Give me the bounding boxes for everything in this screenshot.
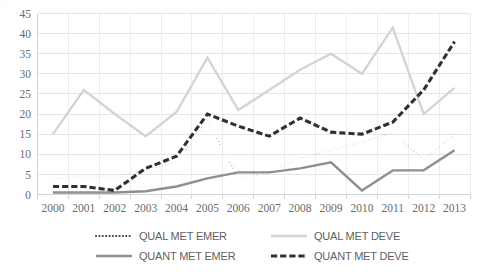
y-axis-tick-label: 20 <box>20 108 32 120</box>
x-axis-tick-label: 2000 <box>41 202 64 214</box>
legend-item[interactable]: QUANT MET DEVE <box>271 250 409 262</box>
x-axis-tick-label: 2002 <box>103 202 126 214</box>
x-axis-tick-label: 2007 <box>258 202 281 214</box>
x-axis-tick-label: 2010 <box>350 202 373 214</box>
x-axis-tick-label: 2003 <box>134 202 157 214</box>
x-axis-tick-label: 2005 <box>196 202 219 214</box>
y-axis-tick-label: 40 <box>20 28 32 40</box>
x-axis-tick-label: 2009 <box>319 202 342 214</box>
y-axis-tick-label: 10 <box>20 148 32 160</box>
x-axis-tick-label: 2004 <box>165 202 188 214</box>
x-axis-tick-label: 2008 <box>289 202 312 214</box>
y-axis-tick-label: 0 <box>25 189 31 201</box>
legend-label: QUANT MET DEVE <box>314 250 409 262</box>
legend-item[interactable]: QUANT MET EMER <box>96 250 236 262</box>
legend-label: QUAL MET DEVE <box>314 230 400 242</box>
x-axis-tick-label: 2006 <box>227 202 250 214</box>
y-axis-tick-label: 15 <box>20 128 32 140</box>
legend-label: QUAL MET EMER <box>139 230 227 242</box>
line-chart: · · · · 05101520253035404520002001200220… <box>0 0 494 275</box>
chart-canvas: 0510152025303540452000200120022003200420… <box>0 0 494 275</box>
x-axis-tick-label: 2011 <box>381 202 404 214</box>
y-axis-tick-label: 45 <box>20 8 32 20</box>
y-axis-tick-label: 35 <box>20 48 32 60</box>
x-axis-tick-label: 2012 <box>412 202 435 214</box>
legend-item[interactable]: QUAL MET EMER <box>96 230 227 242</box>
y-axis-tick-label: 25 <box>20 88 32 100</box>
legend-label: QUANT MET EMER <box>139 250 236 262</box>
x-axis-tick-label: 2013 <box>443 202 466 214</box>
x-axis-tick-label: 2001 <box>72 202 95 214</box>
y-axis-tick-label: 5 <box>25 169 31 181</box>
legend-item[interactable]: QUAL MET DEVE <box>271 230 400 242</box>
y-axis-tick-label: 30 <box>20 68 32 80</box>
